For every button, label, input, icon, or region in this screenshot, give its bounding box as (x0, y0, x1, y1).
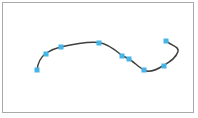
anchor-point-9[interactable] (164, 38, 169, 43)
editor-stage (0, 0, 198, 118)
anchor-point-5[interactable] (120, 53, 125, 58)
anchor-point-7[interactable] (141, 68, 146, 73)
anchor-point-6[interactable] (127, 57, 132, 62)
anchor-point-2[interactable] (43, 51, 48, 56)
anchor-points-layer (0, 0, 198, 118)
anchor-point-3[interactable] (58, 45, 63, 50)
anchor-point-4[interactable] (97, 40, 102, 45)
anchor-point-1[interactable] (35, 68, 40, 73)
anchor-point-8[interactable] (161, 63, 166, 68)
